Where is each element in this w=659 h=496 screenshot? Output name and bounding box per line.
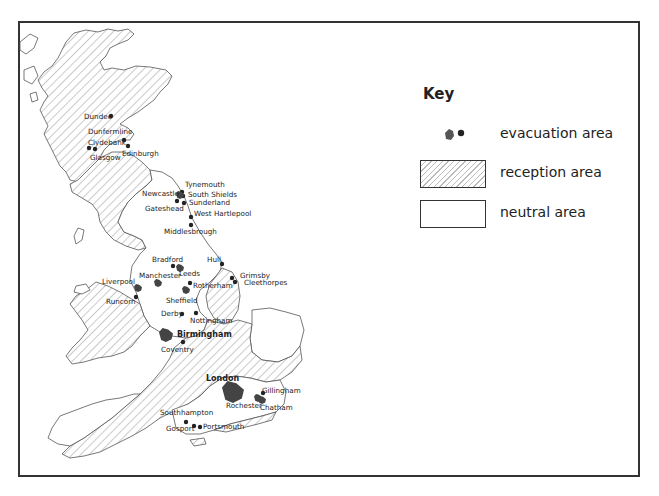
city-marker-glasgow	[93, 147, 97, 151]
city-marker-cleethorpes	[233, 280, 237, 284]
skye	[24, 66, 38, 84]
city-marker-nottingham	[194, 311, 198, 315]
city-label-coventry: Coventry	[161, 345, 194, 354]
city-label-newcastle: Newcastle	[142, 189, 180, 198]
city-label-gillingham: Gillingham	[262, 386, 301, 395]
city-marker-coventry	[181, 340, 185, 344]
city-marker-rotherham	[188, 281, 192, 285]
key-row-neutral: neutral area	[420, 200, 640, 230]
city-label-dunfermline: Dunfermline	[88, 127, 133, 136]
key-label-reception: reception area	[500, 164, 602, 180]
key-label-evacuation: evacuation area	[500, 125, 613, 141]
city-label-west-hartlepool: West Hartlepool	[194, 209, 251, 218]
city-marker-west-hartlepool	[189, 215, 193, 219]
islay	[30, 92, 38, 102]
city-label-rochester: Rochester	[226, 401, 262, 410]
city-label-london: London	[206, 374, 240, 383]
city-label-dundee: Dundee	[84, 112, 113, 121]
city-marker-edinburgh	[126, 144, 130, 148]
hebrides	[20, 34, 38, 54]
isle-of-man	[74, 228, 84, 244]
city-label-sheffield: Sheffield	[166, 296, 197, 305]
hatched-swatch-icon	[420, 160, 486, 188]
city-label-portsmouth: Portsmouth	[203, 422, 244, 431]
city-label-southhampton: Southhampton	[160, 408, 213, 417]
uk-map: DundeeDunfermlineClydebankGlasgowEdinbur…	[0, 0, 659, 496]
city-marker-gateshead	[175, 199, 179, 203]
key-row-evacuation: evacuation area	[420, 123, 640, 153]
city-marker-portsmouth	[198, 425, 202, 429]
city-label-hull: Hull	[207, 255, 221, 264]
city-label-bradford: Bradford	[152, 255, 183, 264]
evacuation-area-icon	[443, 127, 469, 143]
city-label-birmingham: Birmingham	[177, 330, 232, 339]
city-label-liverpool: Liverpool	[102, 277, 135, 286]
key-title: Key	[423, 85, 454, 103]
city-label-chatham: Chatham	[260, 403, 293, 412]
city-label-manchester: Manchester	[139, 271, 181, 280]
city-label-sunderland: Sunderland	[189, 198, 230, 207]
city-label-edinburgh: Edinburgh	[122, 149, 159, 158]
city-label-cleethorpes: Cleethorpes	[244, 278, 288, 287]
city-marker-bradford	[171, 264, 175, 268]
key-label-neutral: neutral area	[500, 204, 586, 220]
city-label-leeds: Leeds	[179, 269, 200, 278]
city-label-gosport: Gosport	[166, 424, 195, 433]
city-label-clydebank: Clydebank	[88, 138, 127, 147]
city-label-rotherham: Rotherham	[193, 281, 233, 290]
city-label-nottingham: Nottingham	[190, 316, 233, 325]
city-label-gateshead: Gateshead	[145, 204, 184, 213]
city-label-glasgow: Glasgow	[90, 153, 121, 162]
blank-swatch-icon	[420, 200, 486, 228]
city-label-tynemouth: Tynemouth	[184, 180, 225, 189]
isle-of-wight	[190, 438, 206, 446]
key-row-reception: reception area	[420, 160, 640, 190]
city-marker-grimsby	[230, 276, 234, 280]
city-label-runcorn: Runcorn	[106, 297, 136, 306]
city-label-derby: Derby	[161, 309, 183, 318]
city-label-middlesbrough: Middlesbrough	[164, 227, 217, 236]
